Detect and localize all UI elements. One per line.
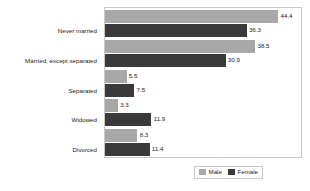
- legend-item-male: Male: [199, 169, 222, 175]
- bar-value: 8.3: [140, 132, 149, 138]
- bar-male: [105, 70, 127, 83]
- legend-label: Female: [237, 169, 258, 175]
- bar-value: 11.4: [152, 146, 164, 152]
- bar-value: 30.9: [228, 57, 240, 63]
- category-label: Separated: [68, 88, 97, 94]
- bar-male: [105, 99, 118, 112]
- bar-value: 36.3: [249, 27, 261, 33]
- legend-swatch-icon: [199, 169, 206, 175]
- category-label: Married, except separated: [25, 58, 97, 64]
- bar-value: 5.5: [129, 73, 138, 79]
- bar-male: [105, 10, 278, 23]
- bar-female: [105, 24, 247, 37]
- bar-female: [105, 54, 226, 67]
- bar-value: 11.9: [154, 116, 166, 122]
- legend-label: Male: [209, 169, 222, 175]
- bar-female: [105, 84, 134, 97]
- bar-female: [105, 143, 150, 156]
- bar-male: [105, 40, 255, 53]
- category-label: Divorced: [73, 147, 97, 153]
- category-axis: Never married Married, except separated …: [0, 7, 100, 158]
- category-label: Never married: [58, 28, 97, 34]
- category-label: Widowed: [72, 117, 97, 123]
- bar-value: 7.5: [137, 87, 146, 93]
- bar-chart: Never married Married, except separated …: [0, 0, 310, 191]
- bar-male: [105, 129, 137, 142]
- chart-legend: Male Female: [194, 166, 263, 179]
- bar-value: 3.3: [120, 102, 129, 108]
- bar-female: [105, 113, 151, 126]
- bars-layer: 44.4 36.3 38.5 30.9 5.5 7.5 3.3 11.9 8.3…: [105, 8, 301, 157]
- bar-value: 44.4: [281, 13, 293, 19]
- legend-swatch-icon: [228, 169, 235, 175]
- legend-item-female: Female: [228, 169, 258, 175]
- bar-value: 38.5: [258, 43, 270, 49]
